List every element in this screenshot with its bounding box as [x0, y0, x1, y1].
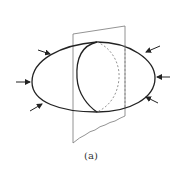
arrow-upper-right-icon: [146, 46, 160, 52]
arrow-lower-left-icon: [30, 104, 42, 111]
arrow-upper-left-icon: [38, 50, 50, 54]
figure-caption: (a): [0, 150, 182, 161]
arrow-lower-right-icon: [146, 97, 158, 103]
